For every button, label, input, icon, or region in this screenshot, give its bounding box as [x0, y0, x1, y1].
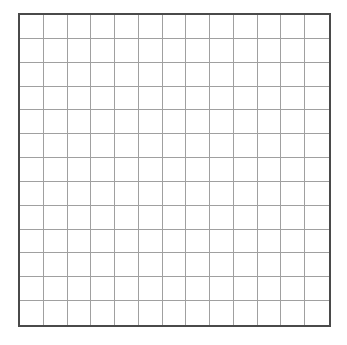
grid-cell: [234, 253, 258, 277]
grid-cell: [258, 87, 282, 111]
grid-cell: [163, 206, 187, 230]
grid-cell: [20, 87, 44, 111]
grid-cell: [163, 15, 187, 39]
grid-cell: [91, 134, 115, 158]
grid-cell: [305, 253, 329, 277]
grid-cell: [91, 277, 115, 301]
grid-cell: [139, 39, 163, 63]
grid-cell: [210, 158, 234, 182]
grid-cell: [281, 63, 305, 87]
grid-cell: [281, 182, 305, 206]
grid-cell: [210, 277, 234, 301]
grid-cell: [234, 158, 258, 182]
grid-cell: [91, 63, 115, 87]
grid-cell: [305, 158, 329, 182]
grid-cell: [186, 39, 210, 63]
grid-cell: [20, 39, 44, 63]
grid-cell: [305, 15, 329, 39]
grid-cell: [115, 301, 139, 325]
grid-cell: [20, 301, 44, 325]
grid-cell: [258, 301, 282, 325]
grid-cell: [68, 87, 92, 111]
grid-cell: [44, 301, 68, 325]
grid-cell: [68, 230, 92, 254]
grid-cell: [186, 63, 210, 87]
grid-cell: [186, 230, 210, 254]
grid-cell: [234, 39, 258, 63]
grid-cell: [234, 277, 258, 301]
grid-cell: [258, 206, 282, 230]
grid-cell: [115, 110, 139, 134]
grid-cell: [163, 87, 187, 111]
grid-cell: [91, 206, 115, 230]
grid-cell: [163, 39, 187, 63]
grid-cell: [281, 301, 305, 325]
grid-cell: [186, 110, 210, 134]
grid-cell: [281, 158, 305, 182]
grid-cell: [115, 206, 139, 230]
grid-cell: [186, 206, 210, 230]
grid-cell: [139, 230, 163, 254]
grid-cell: [44, 63, 68, 87]
grid-cell: [68, 253, 92, 277]
grid-cell: [20, 15, 44, 39]
grid-cell: [139, 134, 163, 158]
square-grid: [18, 13, 331, 327]
grid-cell: [115, 39, 139, 63]
grid-cell: [234, 206, 258, 230]
grid-cell: [91, 301, 115, 325]
grid-cell: [163, 158, 187, 182]
grid-cell: [115, 134, 139, 158]
grid-cell: [115, 182, 139, 206]
grid-cell: [281, 39, 305, 63]
grid-cell: [20, 277, 44, 301]
grid-cell: [20, 63, 44, 87]
grid-cell: [210, 87, 234, 111]
grid-cell: [44, 230, 68, 254]
grid-cell: [91, 158, 115, 182]
grid-cell: [139, 158, 163, 182]
grid-cell: [44, 253, 68, 277]
grid-cell: [281, 134, 305, 158]
grid-cell: [258, 158, 282, 182]
grid-cell: [163, 134, 187, 158]
grid-cell: [281, 15, 305, 39]
grid-cell: [91, 110, 115, 134]
grid-cell: [186, 253, 210, 277]
grid-cell: [115, 158, 139, 182]
grid-cell: [139, 87, 163, 111]
grid-cell: [44, 87, 68, 111]
grid-cell: [210, 253, 234, 277]
grid-cell: [258, 63, 282, 87]
grid-cell: [44, 15, 68, 39]
grid-cell: [258, 182, 282, 206]
grid-cell: [68, 206, 92, 230]
grid-cell: [139, 206, 163, 230]
grid-cell: [305, 277, 329, 301]
grid-cell: [281, 87, 305, 111]
grid-cell: [20, 253, 44, 277]
grid-cell: [68, 39, 92, 63]
grid-cell: [210, 63, 234, 87]
grid-cell: [234, 182, 258, 206]
grid-cell: [234, 301, 258, 325]
grid-cell: [20, 110, 44, 134]
grid-cell: [210, 301, 234, 325]
grid-cell: [258, 15, 282, 39]
grid-cell: [210, 134, 234, 158]
grid-cell: [234, 87, 258, 111]
grid-cell: [305, 110, 329, 134]
grid-cell: [139, 277, 163, 301]
grid-cell: [305, 206, 329, 230]
grid-cell: [115, 15, 139, 39]
grid-cell: [91, 230, 115, 254]
grid-cell: [186, 277, 210, 301]
grid-cell: [234, 134, 258, 158]
grid-cell: [281, 253, 305, 277]
grid-cell: [305, 63, 329, 87]
grid-cell: [258, 230, 282, 254]
grid-cell: [234, 230, 258, 254]
grid-cell: [44, 206, 68, 230]
grid-cell: [281, 277, 305, 301]
grid-cell: [305, 87, 329, 111]
